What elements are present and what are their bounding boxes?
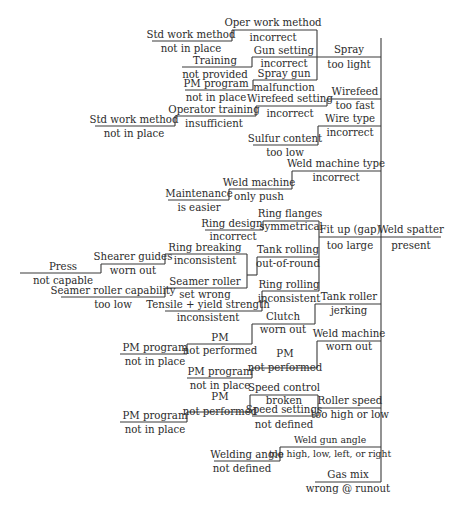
node-state: symmetrical	[259, 221, 323, 232]
effect-state: present	[391, 240, 431, 251]
node-pm-2: PM not performed	[248, 348, 323, 378]
node-title: Wirefeed setting	[247, 93, 333, 104]
node-pm-program-2: PM program not in place	[120, 342, 188, 367]
node-clutch: Clutch worn out	[252, 311, 315, 344]
node-title: PM	[211, 391, 228, 402]
node-title: Ring flanges	[258, 208, 322, 219]
cause-weld-machine-type: Weld machine type incorrect	[287, 158, 385, 189]
node-title: Shearer guides	[94, 251, 173, 262]
node-std-work-method-1: Std work method not in place	[147, 29, 236, 54]
node-state: out-of-round	[256, 258, 320, 269]
cause-title: Tank roller	[321, 291, 378, 302]
node-title: PM program	[122, 342, 188, 353]
node-state: too low	[266, 147, 304, 158]
node-state: is easier	[177, 202, 220, 213]
cause-title: Roller speed	[318, 395, 383, 406]
node-title: PM program	[183, 78, 249, 89]
node-pm-program-1: PM program not in place	[183, 78, 253, 103]
cause-title: Weld machine	[313, 328, 386, 339]
effect-title: Weld spatter	[378, 224, 444, 235]
node-state: not performed	[183, 345, 258, 356]
cause-title: Spray	[334, 44, 364, 55]
node-ring-flanges: Ring flanges symmetrical	[258, 208, 323, 232]
node-oper-work-method: Oper work method incorrect	[224, 17, 322, 43]
cause-title: Wire type	[325, 113, 375, 124]
node-state: too low	[94, 299, 132, 310]
cause-state: too light	[327, 59, 371, 70]
node-state: not defined	[213, 463, 272, 474]
node-spray-gun: Spray gun malfunction	[253, 68, 317, 93]
node-title: Spray gun	[257, 68, 311, 79]
node-state: malfunction	[253, 82, 315, 93]
node-tank-rolling: Tank rolling out-of-round	[256, 244, 320, 275]
cause-state: too high, low, left, or right	[269, 448, 392, 459]
node-state: incorrect	[209, 231, 257, 242]
node-title: PM	[276, 348, 293, 359]
cause-state: wrong @ runout	[306, 483, 391, 494]
node-title: Speed settings	[246, 404, 322, 415]
node-state: not performed	[248, 362, 323, 373]
node-ring-breaking: Ring breaking inconsistent	[165, 242, 257, 275]
node-title: Maintenance	[165, 188, 232, 199]
cause-tank-roller: Tank roller jerking	[315, 291, 381, 324]
node-title: Clutch	[266, 311, 300, 322]
cause-spray: Spray too light	[317, 30, 381, 80]
node-title: Tensile + yield strength	[146, 299, 270, 310]
node-title: Weld machine	[223, 177, 296, 188]
node-weld-machine-push: Weld machine only push	[223, 177, 296, 202]
effect-weld-spatter: Weld spatter present	[378, 224, 444, 251]
cause-title: Weld gun angle	[294, 434, 366, 445]
node-title: PM program	[122, 410, 188, 421]
node-tensile-yield: Tensile + yield strength inconsistent	[146, 299, 270, 323]
node-state: not in place	[125, 356, 186, 367]
cause-state: too large	[327, 240, 373, 251]
node-title: Std work method	[90, 114, 179, 125]
node-state: inconsistent	[174, 255, 238, 266]
node-title: Seamer roller	[169, 276, 240, 287]
fault-tree-diagram: Weld spatter present Spray too light Ope…	[0, 0, 461, 509]
node-title: Tank rolling	[257, 244, 319, 255]
node-pm-program-3: PM program not in place	[187, 366, 253, 391]
node-title: Oper work method	[224, 17, 322, 28]
node-std-work-method-2: Std work method not in place	[90, 114, 179, 139]
node-training: Training not provided	[182, 55, 252, 80]
cause-title: Fit up (gap)	[319, 224, 380, 235]
node-state: worn out	[110, 265, 157, 276]
node-maintenance: Maintenance is easier	[165, 188, 232, 213]
node-state: not in place	[186, 92, 247, 103]
node-state: inconsistent	[177, 312, 241, 323]
cause-wirefeed: Wirefeed too fast	[327, 86, 381, 111]
cause-state: incorrect	[312, 172, 360, 183]
node-title: PM program	[187, 366, 253, 377]
node-state: not defined	[255, 419, 314, 430]
node-title: Seamer roller capability	[50, 285, 175, 296]
node-title: Ring design	[201, 218, 263, 229]
node-title: Speed control	[248, 382, 320, 393]
node-title: Ring rolling	[258, 279, 320, 290]
node-title: PM	[211, 332, 228, 343]
cause-roller-speed: Roller speed too high or low	[311, 395, 389, 420]
node-state: insufficient	[185, 118, 244, 129]
node-title: Press	[49, 261, 77, 272]
node-title: Operator training	[168, 104, 260, 115]
node-operator-training: Operator training insufficient	[168, 104, 260, 129]
cause-title: Wirefeed	[332, 86, 379, 97]
cause-state: jerking	[330, 305, 368, 316]
node-title: Std work method	[147, 29, 236, 40]
cause-title: Gas mix	[327, 469, 369, 480]
node-state: not in place	[104, 128, 165, 139]
node-shearer-guides: Shearer guides worn out	[94, 251, 173, 276]
cause-title: Weld machine type	[287, 158, 385, 169]
node-title: Training	[193, 55, 237, 66]
node-welding-angle: Welding angle not defined	[210, 449, 283, 474]
node-state: not in place	[125, 424, 186, 435]
node-title: Welding angle	[210, 449, 283, 460]
node-state: not performed	[183, 406, 258, 417]
node-title: Sulfur content	[248, 133, 323, 144]
node-seamer-roller: Seamer roller set wrong	[165, 275, 247, 300]
node-state: not in place	[190, 380, 251, 391]
node-wirefeed-setting: Wirefeed setting incorrect	[247, 93, 333, 119]
node-sulfur-content: Sulfur content too low	[248, 133, 323, 158]
cause-weld-gun-angle: Weld gun angle too high, low, left, or r…	[269, 434, 392, 461]
cause-state: worn out	[326, 341, 373, 352]
